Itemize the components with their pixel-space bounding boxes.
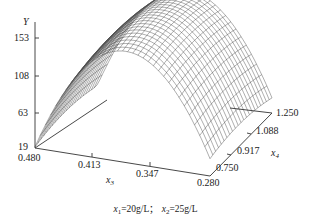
surface-plot — [0, 0, 311, 217]
x4-tick-0917: 0.917 — [237, 146, 260, 156]
x3-tick-0413: 0.413 — [78, 160, 101, 170]
x4-tick-0750: 0.750 — [216, 163, 239, 173]
z-tick-19: 19 — [18, 142, 28, 152]
x4-tick-1250: 1.250 — [276, 108, 299, 118]
x4-tick-1088: 1.088 — [256, 126, 279, 136]
x3-tick-0280: 0.280 — [197, 178, 220, 188]
chart-caption: x1=20g/L； x2=25g/L — [0, 201, 311, 216]
z-axis-label: Y — [23, 17, 29, 27]
x4-axis-label: x4 — [271, 148, 279, 161]
x3-tick-0347: 0.347 — [136, 169, 159, 179]
z-tick-108: 108 — [14, 71, 29, 81]
x3-axis-label: x3 — [106, 175, 114, 188]
z-tick-63: 63 — [18, 108, 28, 118]
surface-mesh — [35, 0, 272, 159]
x3-tick-0480: 0.480 — [18, 153, 41, 163]
z-tick-153: 153 — [14, 33, 29, 43]
x3-axis — [35, 148, 210, 176]
